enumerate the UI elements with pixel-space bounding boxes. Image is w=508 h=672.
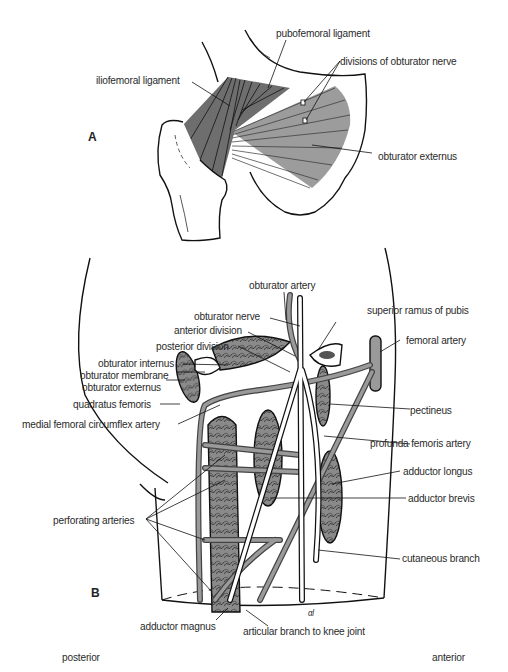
label-adductor-magnus: adductor magnus: [140, 620, 216, 633]
label-perforating-arteries: perforating arteries: [53, 514, 134, 527]
figure-b-thigh: [79, 248, 410, 626]
label-superior-ramus-of-pubis: superior ramus of pubis: [367, 304, 469, 317]
label-obturator-externus-b: obturator externus: [82, 381, 161, 394]
label-cutaneous-branch: cutaneous branch: [402, 552, 480, 565]
label-adductor-longus: adductor longus: [403, 465, 472, 478]
label-divisions-of-obturator-nerve: divisions of obturator nerve: [340, 55, 457, 68]
label-iliofemoral-ligament: iliofemoral ligament: [96, 74, 180, 87]
orientation-posterior: posterior: [62, 651, 100, 664]
label-profunda-femoris-artery: profunda femoris artery: [370, 437, 471, 450]
label-femoral-artery: femoral artery: [406, 334, 466, 347]
label-pectineus: pectineus: [410, 404, 452, 417]
label-obturator-externus-a: obturator externus: [378, 150, 457, 163]
artist-signature: αl: [308, 607, 314, 620]
label-quadratus-femoris: quadratus femoris: [73, 398, 151, 411]
label-adductor-brevis: adductor brevis: [408, 492, 475, 505]
orientation-anterior: anterior: [432, 651, 465, 664]
label-obturator-nerve: obturator nerve: [194, 310, 260, 323]
label-anterior-division: anterior division: [174, 324, 242, 337]
label-pubofemoral-ligament: pubofemoral ligament: [276, 27, 370, 40]
figure-b-label: B: [91, 586, 100, 600]
label-posterior-division: posterior division: [156, 340, 229, 353]
label-articular-branch-to-knee-joint: articular branch to knee joint: [243, 625, 365, 638]
figure-a-label: A: [88, 130, 97, 144]
label-obturator-artery: obturator artery: [249, 279, 315, 292]
label-medial-femoral-circumflex-artery: medial femoral circumflex artery: [22, 418, 160, 431]
